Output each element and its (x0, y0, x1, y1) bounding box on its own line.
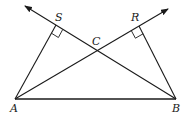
geometry-diagram: S R C A B (0, 0, 190, 118)
label-a: A (9, 102, 18, 115)
label-b: B (171, 102, 180, 115)
segment-as (15, 25, 56, 99)
ray-a-c-r (15, 9, 168, 99)
ray-b-c-s (25, 6, 176, 99)
diagram-canvas: S R C A B (0, 0, 190, 118)
label-c: C (92, 35, 101, 48)
label-s: S (55, 11, 63, 24)
label-r: R (130, 11, 139, 24)
